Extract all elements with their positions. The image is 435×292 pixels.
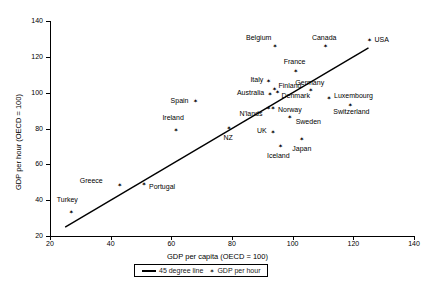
- data-label-italy: Italy: [250, 76, 263, 84]
- legend-marker-icon: ✶: [209, 267, 214, 275]
- data-point-uk[interactable]: [270, 130, 275, 135]
- data-point-greece[interactable]: [117, 183, 122, 188]
- data-point-denmark[interactable]: [275, 90, 280, 95]
- data-point-canada[interactable]: [323, 44, 328, 49]
- legend-entry----degree-line[interactable]: 45 degree line: [142, 266, 203, 275]
- data-point-norway[interactable]: [270, 106, 275, 111]
- data-label-uk: UK: [257, 127, 267, 135]
- data-point-spain[interactable]: [193, 99, 198, 104]
- scatter-chart: 20406080100120140 20406080100120140 GDP …: [0, 0, 435, 292]
- x-tick-label-40: 40: [96, 240, 126, 248]
- y-tick-label-40: 40: [19, 196, 43, 204]
- data-label-greece: Greece: [80, 177, 103, 185]
- legend-entry-gdp-per-hour[interactable]: ✶GDP per hour: [209, 266, 260, 275]
- data-point-france[interactable]: [293, 69, 298, 74]
- data-label-denmark: Denmark: [282, 92, 310, 100]
- data-point-germany[interactable]: [308, 88, 313, 93]
- plot-area: TurkeyGreecePortugalIrelandSpainNZN'land…: [50, 21, 414, 236]
- data-label-switzerland: Switzerland: [333, 108, 369, 116]
- data-label-germany: Germany: [295, 79, 324, 87]
- x-tick-label-20: 20: [35, 240, 65, 248]
- x-axis-title: GDP per capita (OECD = 100): [0, 252, 435, 261]
- data-label-norway: Norway: [278, 106, 302, 114]
- data-label-iceland: Iceland: [267, 152, 290, 160]
- data-point-luxembourg[interactable]: [327, 96, 332, 101]
- data-label-japan: Japan: [292, 145, 311, 153]
- data-label-ireland: Ireland: [162, 114, 183, 122]
- x-tick-label-60: 60: [156, 240, 186, 248]
- data-point-sweden[interactable]: [287, 115, 292, 120]
- data-label-portugal: Portugal: [149, 183, 175, 191]
- data-label-n-lands: N'lands: [239, 110, 262, 118]
- data-point-ireland[interactable]: [173, 128, 178, 133]
- legend-label: 45 degree line: [159, 266, 203, 275]
- legend-line-swatch: [142, 270, 156, 272]
- reference-line-45-degree: [50, 21, 414, 236]
- data-point-switzerland[interactable]: [348, 103, 353, 108]
- y-tick-label-120: 120: [19, 53, 43, 61]
- data-label-france: France: [284, 58, 306, 66]
- data-label-luxembourg: Luxembourg: [334, 92, 373, 100]
- data-label-belgium: Belgium: [246, 34, 271, 42]
- data-point-australia[interactable]: [267, 92, 272, 97]
- data-point-portugal[interactable]: [142, 182, 147, 187]
- data-label-australia: Australia: [237, 89, 264, 97]
- chart-legend: 45 degree line✶GDP per hour: [134, 264, 268, 277]
- data-point-japan[interactable]: [299, 137, 304, 142]
- y-tick-label-140: 140: [19, 17, 43, 25]
- legend-label: GDP per hour: [217, 266, 260, 275]
- data-label-turkey: Turkey: [57, 196, 78, 204]
- x-tick-label-120: 120: [338, 240, 368, 248]
- data-label-sweden: Sweden: [296, 118, 321, 126]
- x-tick-label-80: 80: [217, 240, 247, 248]
- data-label-nz: NZ: [223, 134, 232, 142]
- data-point-italy[interactable]: [266, 79, 271, 84]
- data-label-spain: Spain: [171, 97, 189, 105]
- x-tick-label-100: 100: [278, 240, 308, 248]
- data-label-usa: USA: [374, 36, 388, 44]
- y-tick-label-20: 20: [19, 232, 43, 240]
- data-label-canada: Canada: [312, 34, 337, 42]
- x-tick-label-140: 140: [399, 240, 429, 248]
- y-axis-title: GDP per hour (OECD = 100): [14, 94, 23, 190]
- data-point-iceland[interactable]: [278, 144, 283, 149]
- data-point-nz[interactable]: [226, 126, 231, 131]
- data-point-usa[interactable]: [367, 38, 372, 43]
- data-point-turkey[interactable]: [69, 210, 74, 215]
- data-point-belgium[interactable]: [273, 44, 278, 49]
